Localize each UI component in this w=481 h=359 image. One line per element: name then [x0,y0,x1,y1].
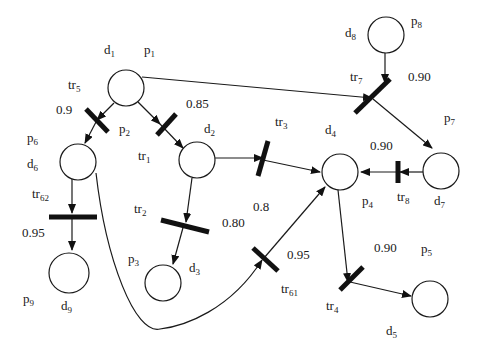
arc-tr2-p3 [173,224,184,264]
label-p2: p2 [119,121,130,138]
cf-tr5: 0.9 [56,102,72,117]
label-d8: d8 [345,25,357,42]
cf-tr4: 0.90 [374,240,397,255]
place-p9[interactable] [49,253,89,293]
place-p4[interactable] [322,154,358,190]
arc-tr3-p4 [263,160,320,172]
place-p1[interactable] [108,70,144,106]
arc-p6-tr61 [96,173,262,329]
transition-bar-tr2[interactable] [161,220,209,232]
label-d4: d4 [325,122,337,139]
arc-p4-tr4 [338,190,348,282]
place-p2[interactable] [179,142,215,178]
cf-tr8: 0.90 [370,138,393,153]
place-p3[interactable] [145,265,181,301]
label-d5: d5 [386,323,398,340]
label-tr8: tr8 [397,189,410,206]
place-p8[interactable] [368,17,404,53]
label-tr2: tr2 [134,201,146,218]
cf-tr7: 0.90 [408,69,431,84]
place-p6[interactable] [60,144,96,180]
label-tr3: tr3 [275,114,288,131]
label-d9: d9 [61,298,73,315]
label-p9: p9 [23,291,35,308]
cf-tr1: 0.85 [186,96,209,111]
label-tr61: tr61 [281,281,298,298]
cf-tr2: 0.80 [222,215,245,230]
label-d3: d3 [189,260,201,277]
petri-net-diagram: d1 p1 p2 d2 p6 d6 d8 p8 p7 d7 d4 p4 p9 d… [0,0,481,359]
arc-tr4-p5 [350,282,411,296]
label-tr5: tr5 [68,77,81,94]
label-p6: p6 [27,130,39,147]
label-p4: p4 [362,193,374,210]
cf-tr62: 0.95 [22,225,45,240]
transition-bar-tr4[interactable] [340,267,363,290]
label-p1: p1 [144,42,155,59]
label-d2: d2 [204,121,215,138]
arc-tr5-p6 [85,122,96,143]
cf-tr3: 0.8 [253,199,269,214]
arc-p2-tr2 [186,178,192,222]
label-tr1: tr1 [138,148,150,165]
label-tr7: tr7 [350,69,363,86]
label-d7: d7 [434,193,446,210]
label-d1: d1 [104,42,115,59]
label-p8: p8 [411,13,423,30]
cf-tr61: 0.95 [287,247,310,262]
label-p7: p7 [444,110,456,127]
arc-p1-tr7 [142,77,372,98]
label-p3: p3 [128,251,140,268]
label-tr62: tr62 [32,186,49,203]
label-tr4: tr4 [326,298,339,315]
place-p7[interactable] [423,153,459,189]
arc-p1-tr1 [138,102,160,124]
arc-p1-tr5 [97,103,114,120]
label-d6: d6 [27,156,39,173]
place-p5[interactable] [412,281,448,317]
label-p5: p5 [421,241,433,258]
